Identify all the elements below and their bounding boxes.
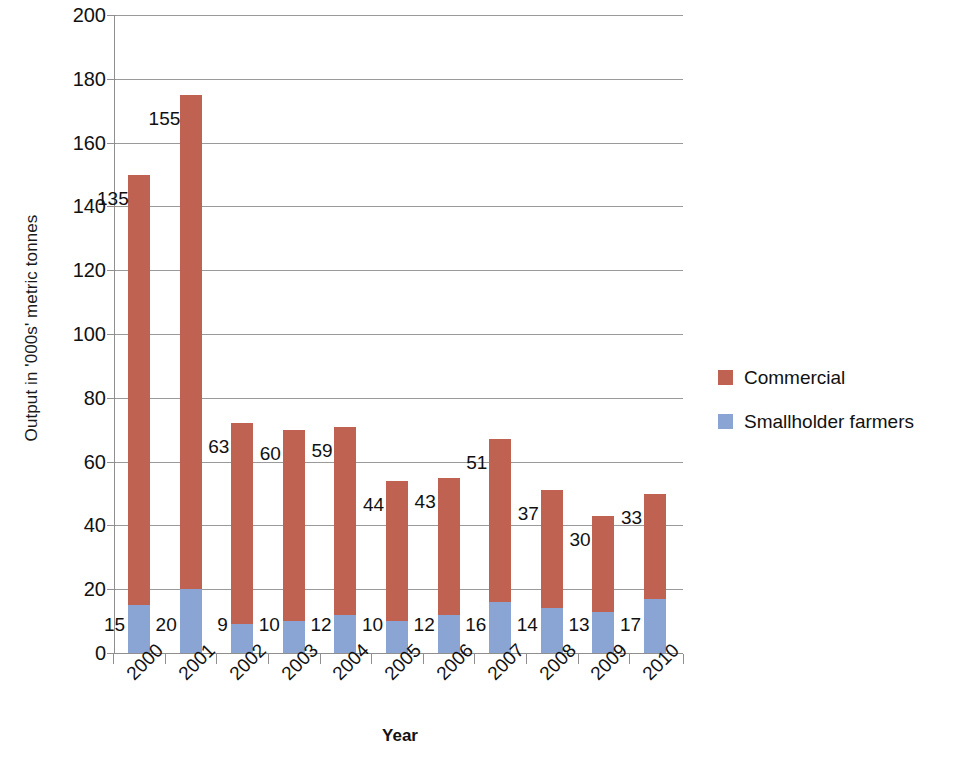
y-tick-mark bbox=[107, 143, 116, 144]
x-tick-mark bbox=[629, 654, 630, 664]
bar-2009[interactable] bbox=[592, 15, 614, 653]
bar-segment-commercial[interactable] bbox=[541, 490, 563, 608]
y-axis-tick-labels: 200180160140120100806040200 bbox=[34, 0, 106, 760]
bar-segment-commercial[interactable] bbox=[644, 494, 666, 599]
bar-segment-commercial[interactable] bbox=[438, 478, 460, 615]
x-tick-mark bbox=[320, 654, 321, 664]
bar-2006[interactable] bbox=[438, 15, 460, 653]
x-tick-mark bbox=[216, 654, 217, 664]
data-label-smallholder: 12 bbox=[414, 615, 435, 634]
bar-2008[interactable] bbox=[541, 15, 563, 653]
data-label-smallholder: 10 bbox=[259, 615, 280, 634]
bar-segment-commercial[interactable] bbox=[128, 175, 150, 606]
data-label-smallholder: 14 bbox=[517, 615, 538, 634]
data-label-smallholder: 17 bbox=[620, 615, 641, 634]
y-tick-mark bbox=[107, 589, 116, 590]
x-tick-mark bbox=[578, 654, 579, 664]
legend-item-smallholder-farmers[interactable]: Smallholder farmers bbox=[718, 406, 958, 436]
y-tick-label: 140 bbox=[36, 196, 106, 216]
x-tick-mark bbox=[268, 654, 269, 664]
x-tick-mark bbox=[165, 654, 166, 664]
data-label-smallholder: 12 bbox=[310, 615, 331, 634]
data-label-commercial: 60 bbox=[260, 444, 281, 463]
legend-label: Commercial bbox=[744, 368, 845, 387]
x-tick-mark bbox=[683, 654, 684, 664]
y-tick-mark bbox=[107, 270, 116, 271]
y-tick-mark bbox=[107, 525, 116, 526]
y-tick-label: 200 bbox=[36, 5, 106, 25]
y-tick-label: 80 bbox=[36, 388, 106, 408]
bar-2007[interactable] bbox=[489, 15, 511, 653]
bar-2001[interactable] bbox=[180, 15, 202, 653]
x-tick-mark bbox=[423, 654, 424, 664]
y-tick-label: 180 bbox=[36, 69, 106, 89]
y-tick-label: 60 bbox=[36, 452, 106, 472]
data-label-commercial: 63 bbox=[208, 437, 229, 456]
data-label-smallholder: 13 bbox=[568, 615, 589, 634]
plot-area: 1513520155963106012591044124316511437133… bbox=[115, 15, 683, 653]
bar-segment-commercial[interactable] bbox=[592, 516, 614, 612]
data-label-smallholder: 9 bbox=[217, 615, 228, 634]
y-tick-mark bbox=[107, 334, 116, 335]
x-tick-mark bbox=[371, 654, 372, 664]
bar-2000[interactable] bbox=[128, 15, 150, 653]
x-tick-mark bbox=[526, 654, 527, 664]
data-label-commercial: 59 bbox=[311, 441, 332, 460]
bar-segment-commercial[interactable] bbox=[489, 439, 511, 602]
y-tick-mark bbox=[107, 462, 116, 463]
legend-swatch-icon bbox=[718, 414, 733, 429]
x-tick-mark bbox=[474, 654, 475, 664]
y-tick-label: 160 bbox=[36, 133, 106, 153]
bar-2003[interactable] bbox=[283, 15, 305, 653]
bar-segment-commercial[interactable] bbox=[231, 423, 253, 624]
x-tick-mark bbox=[113, 654, 114, 664]
y-tick-label: 40 bbox=[36, 515, 106, 535]
data-label-smallholder: 20 bbox=[156, 615, 177, 634]
y-tick-label: 20 bbox=[36, 579, 106, 599]
y-tick-mark bbox=[107, 15, 116, 16]
data-label-commercial: 44 bbox=[363, 495, 384, 514]
data-label-commercial: 43 bbox=[415, 492, 436, 511]
y-tick-mark bbox=[107, 206, 116, 207]
bar-segment-commercial[interactable] bbox=[283, 430, 305, 621]
bar-2010[interactable] bbox=[644, 15, 666, 653]
data-label-commercial: 33 bbox=[621, 508, 642, 527]
data-label-commercial: 30 bbox=[569, 530, 590, 549]
stacked-bar-chart: Output in '000s' metric tonnes 200180160… bbox=[0, 0, 970, 760]
data-label-commercial: 37 bbox=[518, 504, 539, 523]
data-label-smallholder: 16 bbox=[465, 615, 486, 634]
data-label-commercial: 135 bbox=[97, 189, 129, 208]
data-label-commercial: 155 bbox=[149, 109, 181, 128]
y-tick-mark bbox=[107, 653, 116, 654]
y-tick-label: 100 bbox=[36, 324, 106, 344]
bar-segment-commercial[interactable] bbox=[180, 95, 202, 589]
y-tick-mark bbox=[107, 398, 116, 399]
bar-2005[interactable] bbox=[386, 15, 408, 653]
y-tick-label: 0 bbox=[36, 643, 106, 663]
legend-swatch-icon bbox=[718, 370, 733, 385]
data-label-commercial: 51 bbox=[466, 453, 487, 472]
y-tick-label: 120 bbox=[36, 260, 106, 280]
bar-segment-commercial[interactable] bbox=[334, 427, 356, 615]
legend-item-commercial[interactable]: Commercial bbox=[718, 362, 958, 392]
bar-2002[interactable] bbox=[231, 15, 253, 653]
chart-legend: CommercialSmallholder farmers bbox=[718, 362, 958, 450]
y-tick-mark bbox=[107, 79, 116, 80]
bar-2004[interactable] bbox=[334, 15, 356, 653]
bar-segment-commercial[interactable] bbox=[386, 481, 408, 621]
data-label-smallholder: 10 bbox=[362, 615, 383, 634]
data-label-smallholder: 15 bbox=[104, 615, 125, 634]
x-axis-title: Year bbox=[0, 726, 800, 746]
legend-label: Smallholder farmers bbox=[744, 412, 914, 431]
